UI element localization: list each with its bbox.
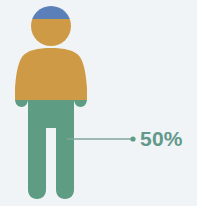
body-filled-region [10, 100, 95, 205]
head-face-shape [28, 19, 74, 49]
callout-dot-icon [130, 136, 135, 141]
body-unfilled-region [10, 44, 95, 100]
head-cap-shape [28, 4, 74, 19]
infographic-canvas: 50% [0, 0, 197, 206]
body-group [10, 44, 95, 205]
head-group [28, 4, 74, 49]
pictogram-graphic [0, 0, 197, 206]
callout-value-label: 50% [140, 127, 183, 151]
